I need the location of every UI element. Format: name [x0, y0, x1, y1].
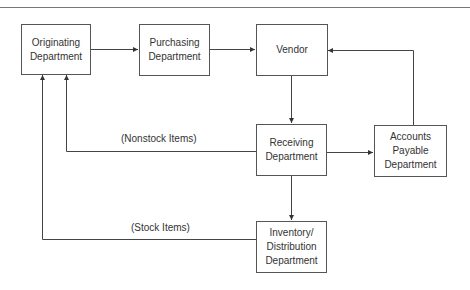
node-label: Department: [30, 50, 82, 64]
node-label: Department: [384, 158, 436, 172]
node-vendor: Vendor: [256, 24, 328, 76]
node-label: Purchasing: [148, 36, 200, 50]
node-label: Payable: [384, 144, 436, 158]
node-originating-department: Originating Department: [21, 24, 91, 75]
node-accounts-payable-department: Accounts Payable Department: [374, 125, 447, 177]
node-label: Distribution: [265, 240, 317, 254]
node-label: Department: [148, 50, 200, 64]
node-label: Accounts: [384, 130, 436, 144]
node-inventory-distribution-department: Inventory/ Distribution Department: [256, 221, 327, 273]
node-label: Department: [265, 254, 317, 268]
node-label: Originating: [30, 36, 82, 50]
edge-ap-to-vendor: [328, 51, 414, 126]
edge-inventory-to-originating-stock: [43, 75, 257, 240]
node-purchasing-department: Purchasing Department: [139, 24, 210, 76]
node-receiving-department: Receiving Department: [256, 124, 327, 176]
node-label: Vendor: [276, 43, 308, 57]
node-label: Inventory/: [265, 226, 317, 240]
edge-label-stock: (Stock Items): [131, 222, 190, 233]
node-label: Receiving: [265, 136, 317, 150]
node-label: Department: [265, 150, 317, 164]
edge-label-nonstock: (Nonstock Items): [121, 133, 197, 144]
